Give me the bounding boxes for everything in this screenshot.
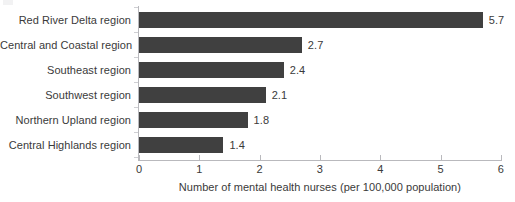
category-label-southeast-region: Southeast region [0,64,131,76]
x-tick-mark [199,155,200,160]
y-tick-mark [134,107,138,108]
bar-northern-upland-region [139,112,248,128]
bar-value-label: 2.7 [308,39,324,51]
bar-value-label: 2.1 [272,89,288,101]
x-tick-label: 6 [498,163,504,175]
y-tick-mark [134,32,138,33]
plot-area: 5.7 2.7 2.4 2.1 1.8 1.4 [139,0,501,160]
x-tick-label: 4 [377,163,383,175]
x-axis-title: Number of mental health nurses (per 100,… [139,181,501,193]
y-tick-mark [134,132,138,133]
bar-value-label: 1.4 [229,139,245,151]
bar-value-label: 1.8 [254,114,270,126]
x-axis-line [138,160,502,161]
bar-central-highlands-region [139,137,223,153]
x-tick-mark [320,155,321,160]
x-tick-mark [139,155,140,160]
x-tick-label: 3 [317,163,323,175]
category-label-central-highlands-region: Central Highlands region [0,139,131,151]
bar-red-river-delta-region [139,12,483,28]
y-tick-mark [134,82,138,83]
bar-southwest-region [139,87,266,103]
x-tick-mark [260,155,261,160]
y-tick-mark [134,7,138,8]
y-tick-mark [134,57,138,58]
bar-value-label: 5.7 [489,14,505,26]
bar-southeast-region [139,62,284,78]
x-tick-mark [380,155,381,160]
x-tick-label: 1 [196,163,202,175]
category-label-northern-upland-region: Northern Upland region [0,114,131,126]
x-tick-label: 0 [136,163,142,175]
category-label-red-river-delta-region: Red River Delta region [0,14,131,26]
x-tick-mark [441,155,442,160]
x-tick-mark [501,155,502,160]
bar-value-label: 2.4 [290,64,306,76]
category-label-central-and-coastal-region: Central and Coastal region [0,39,131,51]
image-corner-artifact [3,0,13,5]
y-tick-mark [134,157,138,158]
category-label-southwest-region: Southwest region [0,89,131,101]
bar-central-and-coastal-region [139,37,302,53]
x-tick-label: 5 [437,163,443,175]
x-tick-label: 2 [257,163,263,175]
bar-chart: Red River Delta region Central and Coast… [0,0,515,202]
